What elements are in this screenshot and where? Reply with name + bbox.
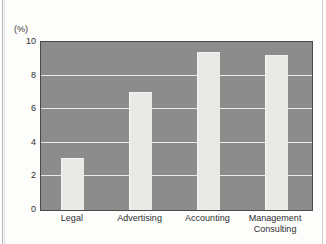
y-axis: 0246810 xyxy=(0,41,36,211)
y-axis-tick-label: 0 xyxy=(2,204,36,214)
plot-area xyxy=(40,41,313,211)
x-axis-tick-label: Accounting xyxy=(174,213,242,224)
y-axis-unit-label: (%) xyxy=(14,24,28,34)
bar xyxy=(265,55,288,210)
y-axis-tick-label: 6 xyxy=(2,103,36,113)
x-axis: LegalAdvertisingAccountingManagement Con… xyxy=(40,213,313,243)
bar xyxy=(197,52,220,210)
y-axis-tick-label: 10 xyxy=(2,36,36,46)
y-axis-tick-label: 2 xyxy=(2,170,36,180)
gridline xyxy=(41,41,312,42)
x-axis-tick-label: Management Consulting xyxy=(241,213,309,235)
y-axis-tick-label: 4 xyxy=(2,137,36,147)
y-axis-tick-label: 8 xyxy=(2,70,36,80)
bar xyxy=(129,92,152,210)
x-axis-tick-label: Advertising xyxy=(106,213,174,224)
bar-chart: (%) 0246810 LegalAdvertisingAccountingMa… xyxy=(0,0,326,244)
x-axis-tick-label: Legal xyxy=(38,213,106,224)
bar xyxy=(61,158,84,210)
page-canvas: (%) 0246810 LegalAdvertisingAccountingMa… xyxy=(0,0,326,244)
